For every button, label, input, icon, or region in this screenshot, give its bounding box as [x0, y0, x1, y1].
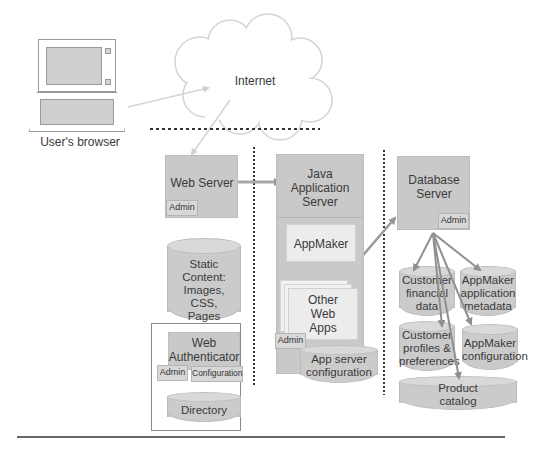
- product-catalog-label: catalog: [399, 395, 517, 408]
- customer-financial-label: data: [399, 300, 455, 313]
- database-server-admin[interactable]: Admin: [438, 213, 469, 229]
- static-content-line: CSS,: [167, 297, 241, 310]
- static-content-line: Pages: [167, 310, 241, 323]
- directory-label: Directory: [167, 404, 241, 417]
- app-server-config-store: App server configuration: [300, 345, 378, 383]
- appmaker-metadata-label: metadata: [460, 300, 516, 313]
- appmaker[interactable]: AppMaker: [286, 224, 356, 262]
- customer-financial-store: Customer financial data: [399, 266, 455, 316]
- other-web-apps-label: Web: [289, 307, 357, 321]
- app-server-config-label: configuration: [300, 366, 378, 379]
- web-server-admin[interactable]: Admin: [166, 200, 198, 216]
- static-content-store: Static Content: Images, CSS, Pages: [167, 238, 241, 320]
- customer-financial-label: financial: [399, 287, 455, 300]
- other-web-apps-label: Other: [289, 293, 357, 307]
- database-server-title: Server: [398, 187, 470, 201]
- customer-profiles-label: Customer: [399, 329, 455, 342]
- web-authenticator-title: Web: [165, 336, 243, 350]
- product-catalog-store: Product catalog: [399, 376, 517, 410]
- directory-store: Directory: [167, 392, 241, 424]
- customer-financial-label: Customer: [399, 274, 455, 287]
- appmaker-config-label: AppMaker: [462, 337, 518, 350]
- product-catalog-label: Product: [399, 382, 517, 395]
- database-server-title: Database: [398, 173, 470, 187]
- java-app-server-title: Java: [277, 167, 363, 181]
- appmaker-metadata-label: application: [460, 287, 516, 300]
- web-server-title: Web Server: [166, 176, 238, 190]
- customer-profiles-store: Customer profiles & preferences: [399, 321, 455, 371]
- appmaker-label: AppMaker: [287, 237, 355, 251]
- appmaker-metadata-label: AppMaker: [460, 274, 516, 287]
- static-content-line: Images,: [167, 284, 241, 297]
- laptop-icon: [29, 39, 125, 132]
- java-app-server-title: Application: [277, 181, 363, 195]
- web-authenticator-title: Authenticator: [165, 350, 243, 364]
- static-content-line: Static Content:: [167, 258, 241, 284]
- appmaker-config-store: AppMaker configuration: [462, 324, 518, 370]
- web-authenticator-admin[interactable]: Admin: [157, 365, 188, 381]
- web-authenticator-configuration[interactable]: Configuration: [191, 366, 243, 382]
- app-server-config-label: App server: [300, 353, 378, 366]
- browser-label: User's browser: [25, 135, 135, 149]
- customer-profiles-label: profiles &: [399, 342, 455, 355]
- internet-label: Internet: [225, 74, 285, 88]
- java-app-server-title: Server: [277, 195, 363, 209]
- appmaker-metadata-store: AppMaker application metadata: [460, 266, 516, 316]
- appmaker-config-label: configuration: [462, 350, 518, 363]
- customer-profiles-label: preferences: [399, 355, 455, 368]
